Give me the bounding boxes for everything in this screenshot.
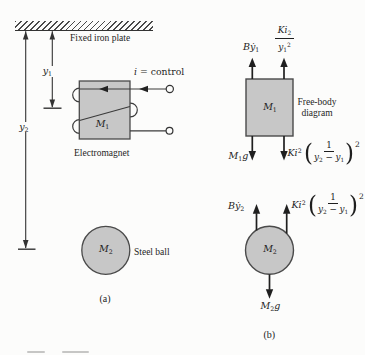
current-arrowhead-outer — [139, 86, 148, 93]
panel-a-caption: (a) — [100, 293, 111, 305]
diagram-canvas — [0, 0, 365, 355]
fbd1-damping-force-label: Bẏ1 — [243, 42, 259, 53]
y2-arrowhead-down — [23, 240, 29, 248]
fbd1-weight-label: M1g — [229, 151, 249, 162]
free-body-caption-line2: diagram — [293, 108, 342, 119]
fixed-iron-plate-label: Fixed iron plate — [70, 33, 130, 44]
terminal-bottom — [166, 127, 173, 134]
ball-mass-label: M2 — [95, 244, 116, 255]
fbd2-down-arrowhead — [266, 289, 273, 299]
fbd1-ball-reaction-fraction-denominator: y2 − y1 — [314, 152, 344, 166]
y2-arrowhead-up — [23, 31, 29, 39]
fbd2-magnet-attraction-label: Ki2 ( 1 y2 − y1 ) 2 — [292, 192, 364, 218]
magnet-mass-label: M1 — [92, 119, 113, 130]
fbd1-plate-attraction-numerator: Ki2 — [275, 25, 294, 39]
fbd2-magnet-attraction-fraction-numerator: 1 — [328, 192, 338, 204]
y2-dimension-label: y2 — [15, 122, 30, 133]
terminal-top — [166, 85, 173, 92]
electromagnet-caption: Electromagnet — [74, 148, 129, 159]
fbd1-plate-attraction-denominator: y12 — [278, 39, 291, 56]
fbd2-magnet-attraction-exponent: 2 — [359, 193, 364, 201]
steel-ball-caption: Steel ball — [134, 247, 170, 258]
fbd1-ball-reaction-label: Ki2 ( 1 y2 − y1 ) 2 — [288, 140, 360, 166]
fbd1-up-left-arrowhead — [249, 58, 256, 67]
fbd2-magnet-attraction-coefficient: Ki2 — [292, 199, 306, 210]
fbd2-magnet-attraction-fraction-denominator: y2 − y1 — [318, 204, 348, 218]
fbd2-up-right-arrowhead — [283, 204, 290, 214]
fbd1-ball-reaction-fraction: 1 y2 − y1 — [314, 140, 344, 166]
fbd2-magnet-attraction-fraction: 1 y2 − y1 — [318, 192, 348, 218]
fbd1-plate-attraction-label: Ki2 y12 — [271, 25, 298, 56]
open-paren: ( — [304, 141, 314, 165]
open-paren: ( — [308, 193, 318, 217]
control-current-label: i = control — [134, 67, 184, 78]
y1-arrowhead-down — [50, 100, 56, 108]
fbd2-weight-label: M2g — [261, 301, 281, 312]
free-body-diagram-caption: Free-body diagram — [293, 97, 342, 120]
figure-magnetic-levitation: Fixed iron plate y1 y2 i = control M1 El… — [0, 0, 365, 355]
fbd1-up-right-arrowhead — [280, 58, 287, 67]
close-paren: ) — [349, 193, 359, 217]
free-body-caption-line1: Free-body — [293, 97, 342, 108]
panel-b-caption: (b) — [264, 329, 276, 341]
cropped-text-fragment-2 — [62, 351, 89, 354]
fbd1-ball-reaction-fraction-numerator: 1 — [324, 140, 334, 152]
fbd1-ball-reaction-exponent: 2 — [355, 141, 360, 149]
y1-dimension-label: y1 — [38, 66, 53, 77]
fbd2-damping-force-label: Bẏ2 — [228, 201, 244, 212]
fbd1-ball-reaction-coefficient: Ki2 — [288, 147, 302, 158]
fbd1-mass-label: M1 — [256, 102, 284, 113]
fbd2-mass-label: M2 — [256, 244, 284, 255]
cropped-text-fragment-1 — [27, 351, 45, 354]
fbd2-up-left-arrowhead — [253, 204, 260, 214]
close-paren: ) — [345, 141, 355, 165]
y1-arrowhead-up — [50, 31, 56, 39]
fbd1-down-left-arrowhead — [249, 151, 256, 161]
